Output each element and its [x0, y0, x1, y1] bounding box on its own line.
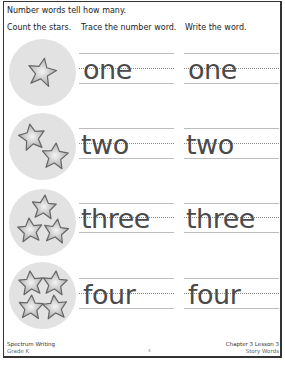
star-circle-two	[9, 113, 76, 180]
write-word-two[interactable]: two	[186, 131, 234, 158]
write-word-one[interactable]: one	[188, 56, 237, 83]
footer-lesson: Story Words	[246, 348, 279, 354]
trace-word-two[interactable]: two	[81, 131, 129, 158]
star-icon	[9, 39, 76, 106]
write-word-four[interactable]: four	[188, 281, 240, 308]
header-write-word: Write the word.	[185, 23, 247, 32]
write-word-three[interactable]: three	[186, 205, 255, 232]
header-count-stars: Count the stars.	[7, 23, 71, 32]
worksheet-title: Number words tell how many.	[7, 6, 126, 15]
stars-icon	[9, 113, 76, 180]
header-trace-word: Trace the number word.	[81, 23, 176, 32]
footer-book-title: Spectrum Writing	[7, 341, 55, 347]
page-number: 4	[148, 348, 151, 353]
star-circle-three	[9, 189, 76, 256]
trace-word-four[interactable]: four	[83, 281, 135, 308]
star-circle-one	[9, 39, 76, 106]
trace-word-three[interactable]: three	[81, 205, 150, 232]
footer-chapter: Chapter 3 Lesson 3	[226, 341, 279, 347]
trace-word-one[interactable]: one	[83, 56, 132, 83]
stars-icon	[9, 189, 76, 256]
footer-grade: Grade K	[7, 348, 29, 354]
star-circle-four	[9, 262, 76, 329]
stars-icon	[9, 262, 76, 329]
